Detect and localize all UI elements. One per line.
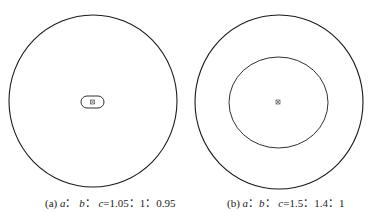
separator: ： [85,197,99,209]
panel-a [9,15,177,187]
ratio-values-a: =1.05：1：0.95 [103,197,175,209]
outer-circle-b [195,15,363,189]
diagram-canvas [0,0,373,212]
center-marker-icon-b [276,100,280,104]
ratio-values-b: =1.5：1.4：1 [283,197,344,209]
outer-circle-a [9,15,177,187]
center-marker-icon-a [91,100,95,104]
caption-b: (b) a：b： c=1.5：1.4：1 [227,194,344,210]
caption-label-b: (b) [227,197,243,209]
separator: ： [65,197,79,209]
caption-a: (a) a： b： c=1.05：1：0.95 [45,194,176,210]
caption-label-a: (a) [45,197,60,209]
separator: ： [248,197,259,209]
panel-b [195,15,363,189]
separator: ： [265,197,279,209]
